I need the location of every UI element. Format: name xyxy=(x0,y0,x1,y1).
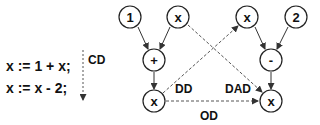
node-1: 1 xyxy=(119,6,141,28)
edge-2-to-minus xyxy=(277,27,288,49)
svg-text:x: x xyxy=(267,94,275,109)
node-x-bottom-left: x xyxy=(143,90,165,112)
svg-text:2: 2 xyxy=(292,10,299,25)
node-x-bottom-right: x xyxy=(260,90,282,112)
dad-label: DAD xyxy=(225,82,251,96)
edge-x-to-plus xyxy=(160,27,170,49)
svg-text:x: x xyxy=(150,94,158,109)
dd-label: DD xyxy=(175,82,193,96)
svg-text:-: - xyxy=(269,53,273,68)
dependence-graph: 1 x + x x 2 - x DD DAD OD xyxy=(0,0,320,125)
svg-text:1: 1 xyxy=(126,10,133,25)
node-minus: - xyxy=(260,49,282,71)
edge-x-to-minus xyxy=(255,27,265,49)
node-2: 2 xyxy=(285,6,307,28)
node-x-top-right: x xyxy=(236,6,258,28)
od-label: OD xyxy=(200,109,218,123)
edge-1-to-plus xyxy=(138,27,148,49)
svg-text:x: x xyxy=(243,10,251,25)
node-x-top-left: x xyxy=(167,6,189,28)
node-plus: + xyxy=(143,49,165,71)
svg-text:x: x xyxy=(174,10,182,25)
svg-text:+: + xyxy=(150,53,158,68)
